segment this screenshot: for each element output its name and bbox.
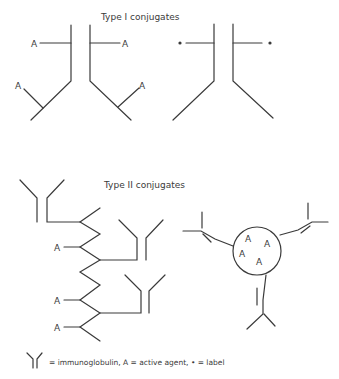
type2-polymer-conjugate: A A A (20, 180, 165, 341)
label-dot-icon (178, 41, 181, 44)
active-agent-label: A (264, 239, 271, 249)
active-agent-label: A (15, 81, 22, 91)
label-dot-icon (268, 41, 271, 44)
active-agent-label: A (256, 257, 263, 267)
type1-title: Type I conjugates (100, 12, 180, 22)
active-agent-label: A (31, 39, 38, 49)
active-agent-label: A (245, 234, 252, 244)
active-agent-label: A (54, 296, 61, 306)
legend: = immunoglobulin, A = active agent, • = … (27, 353, 225, 368)
active-agent-label: A (122, 39, 129, 49)
type2-liposome-conjugate: A A A A (183, 203, 328, 329)
type2-title: Type II conjugates (103, 180, 185, 190)
immunoglobulin-icon (27, 353, 33, 368)
active-agent-label: A (139, 81, 146, 91)
active-agent-label: A (239, 249, 246, 259)
type1-antibody-active-agent: A A A A (15, 25, 146, 120)
active-agent-label: A (54, 323, 61, 333)
type1-antibody-labelled (173, 24, 273, 120)
conjugates-diagram: Type I conjugates A A A A Type II conjug… (0, 0, 339, 379)
active-agent-label: A (54, 243, 61, 253)
legend-text: = immunoglobulin, A = active agent, • = … (49, 358, 225, 367)
